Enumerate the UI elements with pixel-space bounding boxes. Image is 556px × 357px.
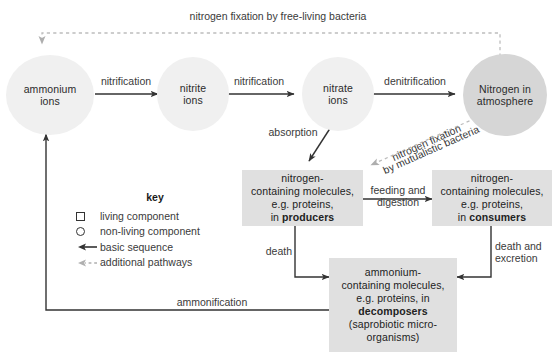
key-item-living-component: living component (76, 209, 208, 225)
key-item-additional-pathways-label: additional pathways (100, 255, 192, 271)
node-decomposers[interactable]: ammonium- containing molecules, e.g. pro… (329, 258, 457, 352)
node-producers-line1: nitrogen- (251, 172, 354, 185)
key-item-basic-sequence: basic sequence (76, 240, 208, 256)
label-ammonification: ammonification (162, 296, 262, 309)
node-nitrite-ions[interactable]: nitrite ions (157, 57, 229, 131)
label-death-excretion-line1: death and (495, 240, 555, 253)
dashed-arrow-icon (76, 258, 100, 268)
key-item-non-living-component-label: non-living component (100, 224, 200, 240)
node-ammonium-ions[interactable]: ammonium ions (6, 55, 94, 135)
node-nitrate-ions-line2: ions (323, 94, 353, 107)
key-title: key (102, 190, 208, 206)
label-nitrogen-fixation-free-living: nitrogen fixation by free-living bacteri… (178, 10, 378, 23)
node-consumers-line3: e.g. proteins, (440, 198, 543, 211)
node-consumers[interactable]: nitrogen- containing molecules, e.g. pro… (432, 170, 552, 226)
label-denitrification: denitrification (373, 75, 457, 88)
label-death-excretion-line2: excretion (495, 252, 555, 265)
arrow-nitrogen-fixation-free-living (42, 33, 500, 63)
label-absorption: absorption (258, 126, 328, 139)
key-item-additional-pathways: additional pathways (76, 255, 208, 271)
key-item-living-component-label: living component (100, 209, 179, 225)
node-nitrate-ions-line1: nitrate (323, 82, 353, 95)
circle-icon (76, 227, 100, 236)
node-decomposers-line3: e.g. proteins, in (341, 292, 444, 305)
node-nitrite-ions-line1: nitrite (180, 82, 206, 95)
node-nitrogen-atmosphere-line2: atmosphere (477, 95, 533, 108)
node-decomposers-line4: decomposers (341, 305, 444, 318)
label-nitrification-1: nitrification (86, 75, 166, 88)
node-consumers-line4: in consumers (440, 211, 543, 224)
arrow-death (295, 226, 329, 277)
node-decomposers-line5: (saprobiotic micro- (341, 318, 444, 331)
label-nitrification-2: nitrification (219, 75, 299, 88)
node-decomposers-line2: containing molecules, (341, 279, 444, 292)
key-item-non-living-component: non-living component (76, 224, 208, 240)
node-consumers-label: consumers (469, 211, 526, 223)
square-icon (76, 212, 100, 221)
node-producers-line4: in producers (251, 211, 354, 224)
node-producers-label: producers (282, 211, 334, 223)
solid-arrow-icon (76, 242, 100, 252)
node-nitrogen-atmosphere-line1: Nitrogen in (477, 83, 533, 96)
label-feeding-digestion-line1: feeding and (364, 184, 432, 197)
nitrogen-cycle-diagram: ammonium ions nitrite ions nitrate ions … (0, 0, 556, 357)
node-consumers-line1: nitrogen- (440, 172, 543, 185)
node-consumers-line4-prefix: in (458, 211, 469, 223)
node-decomposers-line1: ammonium- (341, 266, 444, 279)
key-item-basic-sequence-label: basic sequence (100, 240, 173, 256)
node-nitrite-ions-line2: ions (180, 94, 206, 107)
node-nitrate-ions[interactable]: nitrate ions (302, 57, 374, 131)
node-producers[interactable]: nitrogen- containing molecules, e.g. pro… (242, 170, 363, 226)
label-death: death (252, 245, 292, 258)
label-feeding-digestion-line2: digestion (364, 196, 432, 209)
node-decomposers-line6: organisms) (341, 331, 444, 344)
node-producers-line2: containing molecules, (251, 185, 354, 198)
node-producers-line3: e.g. proteins, (251, 198, 354, 211)
node-producers-line4-prefix: in (271, 211, 282, 223)
node-ammonium-ions-line1: ammonium (24, 83, 77, 96)
node-consumers-line2: containing molecules, (440, 185, 543, 198)
node-decomposers-label: decomposers (358, 305, 427, 317)
key-legend: key living component non-living componen… (76, 190, 208, 271)
arrow-death-excretion (457, 226, 491, 277)
node-ammonium-ions-line2: ions (24, 95, 77, 108)
